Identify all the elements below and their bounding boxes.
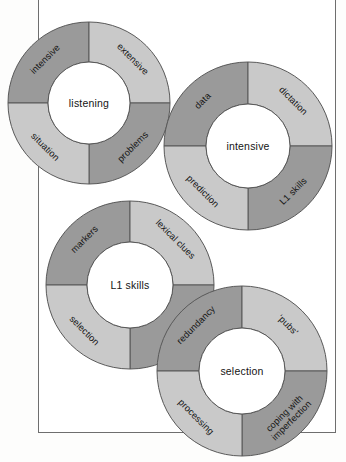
donut-hub: [199, 328, 285, 414]
ring-selection: selectionredundancy‘pubs’coping with imp…: [156, 285, 328, 457]
ring-listening: listeningintensiveextensiveproblemssitua…: [7, 21, 171, 185]
donut-hub: [48, 62, 130, 144]
donut-hub: [206, 104, 290, 188]
figure-canvas: listeningintensiveextensiveproblemssitua…: [0, 0, 346, 462]
